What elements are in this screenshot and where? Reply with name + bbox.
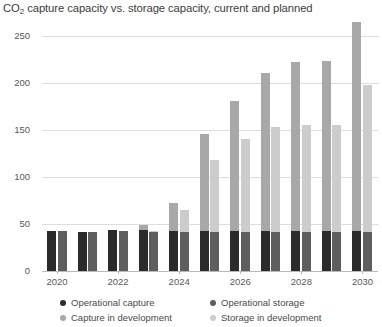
bar-capture-2023[interactable] (139, 225, 148, 271)
bar-group (47, 36, 78, 271)
legend-item[interactable]: Storage in development (210, 312, 360, 323)
bar-capture-2021[interactable] (78, 232, 87, 271)
legend-item[interactable]: Operational capture (60, 297, 210, 308)
bar-capture-2022[interactable] (108, 230, 117, 271)
x-axis-tick (57, 271, 58, 274)
bar-storage-2025[interactable] (210, 160, 219, 271)
bar-group (230, 36, 261, 271)
bar-capture-2030[interactable] (352, 22, 361, 271)
bar-segment (363, 232, 372, 271)
bar-segment (180, 210, 189, 232)
x-axis-tick (240, 271, 241, 274)
bar-storage-2027[interactable] (271, 127, 280, 271)
x-axis-tick (301, 271, 302, 274)
chart-legend: Operational captureOperational storageCa… (60, 295, 360, 325)
bar-segment (88, 232, 97, 271)
bar-segment (210, 232, 219, 271)
bar-storage-2022[interactable] (119, 231, 128, 271)
bar-storage-2029[interactable] (332, 125, 341, 271)
x-axis-tick-label: 2028 (281, 276, 321, 287)
x-axis-tick-label: 2020 (37, 276, 77, 287)
legend-swatch-icon (210, 315, 216, 321)
bar-group (261, 36, 292, 271)
bar-segment (230, 231, 239, 271)
y-axis-tick-label: 150 (0, 124, 30, 135)
bar-segment (332, 125, 341, 231)
plot-area: 050100150200250 (42, 36, 378, 271)
bar-storage-2028[interactable] (302, 125, 311, 271)
legend-swatch-icon (210, 300, 216, 306)
bar-segment (363, 85, 372, 232)
bar-segment (271, 232, 280, 271)
bar-capture-2025[interactable] (200, 134, 209, 271)
bar-capture-2026[interactable] (230, 101, 239, 271)
legend-label: Operational storage (221, 297, 304, 308)
bar-segment (352, 22, 361, 231)
bar-storage-2023[interactable] (149, 231, 158, 271)
bar-segment (241, 232, 250, 271)
y-axis-tick-label: 100 (0, 171, 30, 182)
chart-title-prefix: CO (3, 2, 20, 14)
legend-label: Capture in development (71, 312, 172, 323)
legend-label: Operational capture (71, 297, 154, 308)
bar-segment (302, 125, 311, 231)
legend-item[interactable]: Capture in development (60, 312, 210, 323)
x-axis-tick-label: 2026 (220, 276, 260, 287)
bar-storage-2020[interactable] (58, 231, 67, 271)
bar-segment (47, 231, 56, 271)
bar-group (169, 36, 200, 271)
bar-capture-2024[interactable] (169, 203, 178, 271)
bar-segment (119, 231, 128, 271)
bar-storage-2021[interactable] (88, 232, 97, 271)
bar-segment (352, 231, 361, 271)
y-axis-tick-label: 200 (0, 77, 30, 88)
bar-segment (108, 230, 117, 271)
bar-segment (261, 231, 270, 271)
x-axis-tick-label: 2024 (159, 276, 199, 287)
bar-group (139, 36, 170, 271)
x-axis-tick (362, 271, 363, 274)
bar-segment (230, 101, 239, 231)
legend-item[interactable]: Operational storage (210, 297, 360, 308)
bar-segment (322, 61, 331, 230)
bar-capture-2020[interactable] (47, 231, 56, 271)
bar-segment (291, 62, 300, 230)
bar-segment (180, 232, 189, 271)
bar-segment (332, 232, 341, 271)
x-axis-tick (179, 271, 180, 274)
bar-storage-2026[interactable] (241, 139, 250, 271)
bar-group (352, 36, 382, 271)
bar-segment (169, 231, 178, 271)
x-axis-tick-label: 2022 (98, 276, 138, 287)
bar-segment (149, 232, 158, 271)
bar-segment (78, 232, 87, 271)
bar-storage-2024[interactable] (180, 210, 189, 271)
bar-segment (200, 134, 209, 231)
x-axis-tick (118, 271, 119, 274)
x-axis-line (42, 271, 378, 272)
bar-segment (241, 139, 250, 231)
bar-segment (302, 232, 311, 271)
bar-segment (322, 231, 331, 271)
bar-group (78, 36, 109, 271)
bar-segment (169, 203, 178, 230)
legend-swatch-icon (60, 300, 66, 306)
bar-group (291, 36, 322, 271)
bar-capture-2029[interactable] (322, 61, 331, 271)
bar-group (200, 36, 231, 271)
bar-capture-2028[interactable] (291, 62, 300, 271)
bar-segment (291, 231, 300, 271)
bar-storage-2030[interactable] (363, 85, 372, 271)
y-axis-tick-label: 250 (0, 30, 30, 41)
bar-segment (261, 73, 270, 231)
bar-group (108, 36, 139, 271)
bar-segment (210, 160, 219, 231)
bar-segment (139, 230, 148, 271)
bar-segment (58, 231, 67, 271)
y-axis-tick-label: 50 (0, 218, 30, 229)
legend-label: Storage in development (221, 312, 321, 323)
y-axis-tick-label: 0 (0, 265, 30, 276)
bar-capture-2027[interactable] (261, 73, 270, 271)
chart-title-rest: capture capacity vs. storage capacity, c… (24, 2, 312, 14)
chart-container: CO2 capture capacity vs. storage capacit… (0, 0, 382, 327)
